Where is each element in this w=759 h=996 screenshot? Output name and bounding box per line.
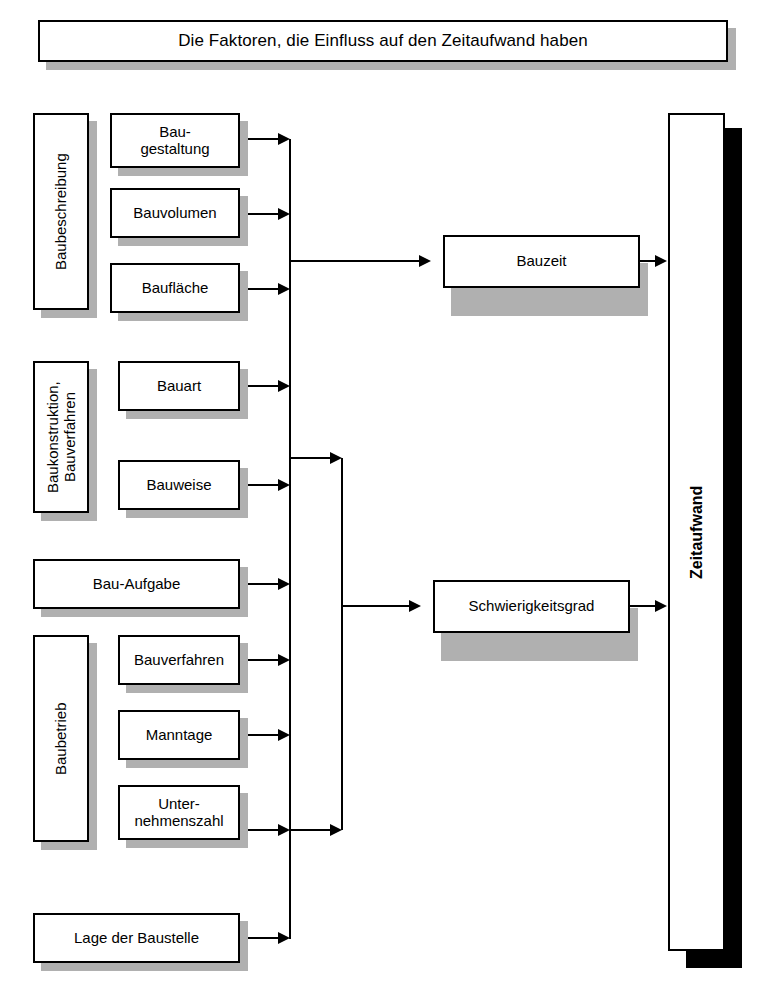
factor-box-bauweise: Bauweise (118, 460, 240, 510)
connector-unternehmenszahl (248, 829, 280, 831)
connector-bus-main (289, 139, 291, 939)
connector-lage-der-baustelle (248, 937, 280, 939)
arrowhead-busB-bottom (330, 824, 342, 836)
group-label-text: Baubetrieb (48, 702, 73, 775)
arrowhead-bauverfahren (278, 654, 290, 666)
group-label-baubetrieb: Baubetrieb (33, 635, 89, 842)
result-label: Zeitaufwand (684, 485, 710, 578)
arrowhead-schwierigkeitsgrad (409, 600, 421, 612)
arrowhead-bauflaeche (278, 283, 290, 295)
arrowhead-bauzeit (419, 255, 431, 267)
factor-box-baugestaltung: Bau- gestaltung (110, 113, 240, 168)
factor-label: Bau-Aufgabe (89, 576, 185, 593)
result-box-zeitaufwand: Zeitaufwand (668, 113, 725, 951)
connector-busA-to-busB-top (290, 457, 332, 459)
arrowhead-bauweise (278, 479, 290, 491)
connector-bau-aufgabe (248, 583, 280, 585)
diagram-title: Die Faktoren, die Einfluss auf den Zeita… (38, 20, 728, 62)
factor-label: Bau- gestaltung (136, 124, 213, 158)
arrowhead-bauvolumen (278, 208, 290, 220)
factor-box-lage-der-baustelle: Lage der Baustelle (33, 913, 240, 963)
connector-bus-secondary (341, 458, 343, 830)
factor-box-bauflaeche: Baufläche (110, 263, 240, 313)
intermediate-box-schwierigkeitsgrad: Schwierigkeitsgrad (433, 580, 630, 633)
arrowhead-zeitaufwand-bauzeit (655, 255, 667, 267)
factor-label: Unter- nehmenszahl (130, 796, 227, 830)
connector-bauvolumen (248, 213, 280, 215)
arrowhead-zeitaufwand-schwierigkeitsgrad (655, 600, 667, 612)
factor-box-bauart: Bauart (118, 361, 240, 411)
arrowhead-unternehmenszahl (278, 824, 290, 836)
factor-label: Lage der Baustelle (70, 930, 203, 947)
arrowhead-bauart (278, 380, 290, 392)
connector-manntage (248, 734, 280, 736)
diagram-title-label: Die Faktoren, die Einfluss auf den Zeita… (174, 31, 592, 50)
factor-label: Bauverfahren (130, 652, 228, 669)
factor-box-manntage: Manntage (118, 710, 240, 760)
connector-busB-to-schwierigkeitsgrad (342, 605, 413, 607)
connector-bauverfahren (248, 659, 280, 661)
arrowhead-manntage (278, 729, 290, 741)
factor-label: Bauweise (142, 477, 215, 494)
group-label-text: Baubeschreibung (48, 153, 73, 270)
intermediate-label: Bauzeit (512, 253, 570, 270)
diagram-canvas: Die Faktoren, die Einfluss auf den Zeita… (0, 0, 759, 996)
intermediate-box-bauzeit: Bauzeit (443, 235, 640, 288)
group-label-baubeschreibung: Baubeschreibung (33, 113, 89, 310)
connector-bus-to-bauzeit (290, 260, 421, 262)
connector-bauart (248, 385, 280, 387)
factor-box-bauvolumen: Bauvolumen (110, 188, 240, 238)
factor-box-bau-aufgabe: Bau-Aufgabe (33, 559, 240, 609)
arrowhead-busB-top (330, 452, 342, 464)
connector-baugestaltung (248, 138, 280, 140)
factor-label: Bauvolumen (129, 205, 220, 222)
factor-label: Manntage (142, 727, 217, 744)
factor-box-bauverfahren: Bauverfahren (118, 635, 240, 685)
connector-busA-to-busB-bottom (290, 829, 332, 831)
connector-bauflaeche (248, 288, 280, 290)
group-label-text: Baukonstruktion, Bauverfahren (40, 381, 83, 493)
factor-label: Bauart (153, 378, 205, 395)
intermediate-label: Schwierigkeitsgrad (465, 598, 599, 615)
arrowhead-bau-aufgabe (278, 578, 290, 590)
arrowhead-lage-der-baustelle (278, 932, 290, 944)
factor-box-unternehmenszahl: Unter- nehmenszahl (118, 785, 240, 840)
factor-label: Baufläche (138, 280, 213, 297)
connector-bauweise (248, 484, 280, 486)
group-label-baukonstruktion: Baukonstruktion, Bauverfahren (33, 361, 89, 513)
arrowhead-baugestaltung (278, 133, 290, 145)
